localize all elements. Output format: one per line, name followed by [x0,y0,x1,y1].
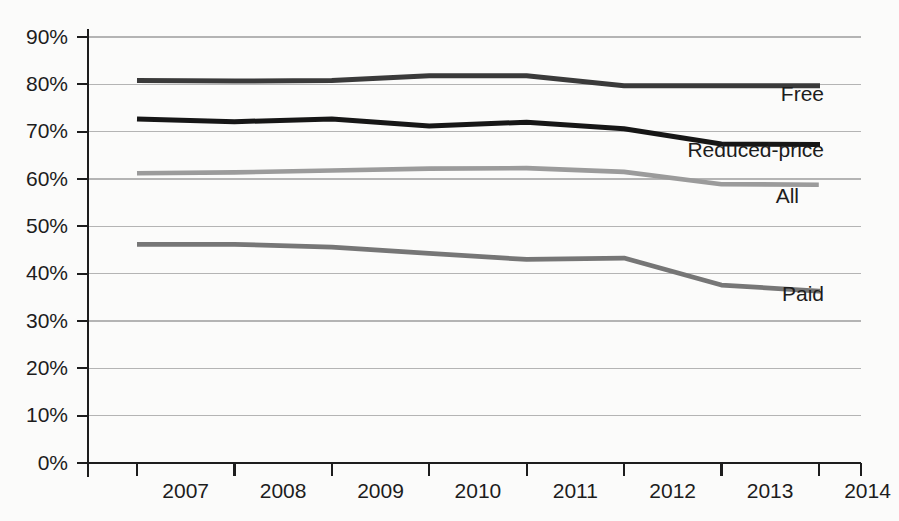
line-chart: 0%10%20%30%40%50%60%70%80%90% 2007200820… [0,0,899,521]
y-tick-label: 20% [26,356,68,379]
x-tick-label: 2009 [357,479,404,502]
x-tick-label: 2008 [260,479,307,502]
gridlines [88,37,861,416]
x-tick-label: 2012 [649,479,696,502]
x-tick-label: 2011 [553,479,598,502]
series-labels: FreeReduced-priceAllPaid [687,82,824,305]
x-axis [88,463,861,476]
x-tick-label: 2007 [162,479,209,502]
y-tick-label: 50% [26,214,68,237]
y-tick-label: 40% [26,261,68,284]
series-label-paid: Paid [782,282,824,305]
x-tick-label: 2010 [455,479,502,502]
y-tick-label: 70% [26,119,68,142]
series-lines [137,76,820,291]
y-tick-label: 60% [26,167,68,190]
series-label-all: All [776,184,799,207]
y-tick-label: 90% [26,25,68,48]
series-line [137,168,819,185]
y-tick-labels: 0%10%20%30%40%50%60%70%80%90% [26,25,68,474]
y-tick-label: 30% [26,309,68,332]
y-tick-label: 10% [26,403,68,426]
y-tick-label: 80% [26,72,68,95]
x-tick-label: 2014 [844,479,891,502]
y-tick-label: 0% [38,451,68,474]
chart-canvas: 0%10%20%30%40%50%60%70%80%90% 2007200820… [0,0,899,521]
series-label-reduced-price: Reduced-price [687,138,824,161]
series-line [137,244,820,291]
y-axis [77,29,88,477]
x-tick-label: 2013 [747,479,794,502]
series-label-free: Free [781,82,824,105]
x-tick-labels: 20072008200920102011201220132014 [162,479,891,502]
